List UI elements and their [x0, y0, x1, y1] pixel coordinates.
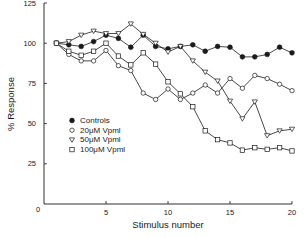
data-point	[203, 83, 207, 87]
data-point	[252, 100, 257, 104]
data-point	[141, 91, 145, 95]
data-point	[91, 39, 96, 44]
y-tick-label: 125	[23, 0, 36, 8]
series-0	[54, 33, 294, 60]
data-point	[265, 134, 270, 138]
legend-label: 100μM Vpml	[80, 145, 125, 154]
data-point	[253, 146, 257, 150]
data-point	[166, 87, 170, 91]
y-tick-label: 75	[28, 79, 36, 88]
series-1	[54, 41, 294, 102]
data-point	[240, 86, 244, 90]
data-point	[104, 41, 108, 45]
data-point	[191, 105, 195, 109]
line-chart: 02550751001255101520 Stimulus number % R…	[0, 0, 304, 237]
data-point	[165, 50, 170, 54]
data-point	[153, 62, 157, 66]
data-point	[79, 59, 83, 63]
y-tick-label: 0	[36, 205, 40, 214]
legend-marker	[70, 147, 74, 151]
data-point	[129, 63, 133, 67]
data-point	[178, 97, 182, 101]
data-point	[166, 80, 170, 84]
y-tick-label: 50	[28, 119, 36, 128]
data-point	[252, 54, 257, 59]
data-point	[178, 92, 182, 96]
data-point	[153, 97, 157, 101]
data-point	[228, 141, 232, 145]
data-point	[79, 33, 84, 37]
data-point	[128, 45, 133, 50]
y-tick-label: 100	[23, 39, 36, 48]
data-point	[290, 88, 294, 92]
data-point	[290, 149, 294, 153]
data-point	[116, 54, 120, 58]
data-point	[277, 82, 281, 86]
data-point	[228, 76, 232, 80]
data-point	[277, 146, 281, 150]
y-tick-label: 25	[28, 159, 36, 168]
axes: 02550751001255101520	[23, 0, 296, 217]
data-point	[215, 137, 219, 141]
data-point	[67, 49, 71, 53]
data-point	[203, 49, 208, 54]
data-point	[253, 73, 257, 77]
legend-item: 100μM Vpml	[70, 145, 125, 154]
data-point	[240, 148, 244, 152]
x-tick-label: 15	[226, 208, 234, 217]
data-point	[129, 68, 133, 72]
legend-marker	[69, 138, 74, 142]
data-point	[290, 50, 295, 55]
data-point	[215, 91, 219, 95]
data-point	[79, 44, 84, 49]
legend: Controls20μM Vpml50μM Vpml100μM Vpml	[69, 116, 125, 154]
data-point	[54, 41, 58, 45]
data-point	[91, 59, 95, 63]
data-point	[228, 45, 233, 50]
data-point	[265, 52, 270, 57]
legend-item: 50μM Vpml	[69, 135, 120, 144]
data-point	[104, 48, 108, 52]
data-point	[265, 147, 269, 151]
data-point	[215, 79, 220, 83]
y-axis-label: % Response	[5, 77, 16, 131]
data-point	[240, 117, 245, 121]
legend-label: Controls	[80, 116, 110, 125]
data-point	[190, 42, 195, 47]
legend-item: Controls	[70, 116, 110, 125]
data-point	[265, 76, 269, 80]
data-point	[116, 36, 121, 41]
x-axis-label: Stimulus number	[132, 219, 203, 230]
data-point	[191, 91, 195, 95]
x-tick-label: 5	[104, 208, 108, 217]
legend-marker	[70, 118, 75, 123]
x-tick-label: 10	[164, 208, 172, 217]
data-point	[91, 49, 95, 53]
data-point	[79, 53, 83, 57]
data-point	[116, 64, 120, 68]
data-point	[203, 129, 207, 133]
data-point	[277, 45, 282, 50]
legend-item: 20μM Vpml	[70, 126, 121, 135]
x-tick-label: 20	[288, 208, 296, 217]
legend-label: 20μM Vpml	[80, 126, 121, 135]
data-point	[215, 44, 220, 49]
legend-marker	[70, 128, 74, 132]
data-point	[141, 51, 145, 55]
data-point	[227, 99, 232, 103]
data-point	[277, 129, 282, 133]
data-point	[240, 54, 245, 59]
legend-label: 50μM Vpml	[80, 135, 121, 144]
